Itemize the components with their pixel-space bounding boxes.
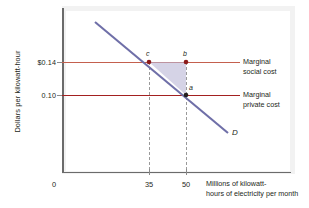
point-label-c: c [146, 50, 150, 57]
point-marker-b [184, 60, 189, 65]
x-tick-mark-50 [186, 169, 187, 175]
chart-overlay [0, 0, 309, 208]
x-axis-title: Millions of kilowatt- hours of electrici… [206, 179, 298, 199]
deadweight-loss-triangle [149, 62, 186, 95]
x-tick-label-50: 50 [182, 180, 190, 189]
chart-screenshot: $0.14 0.10 Dollars per kilowatt-hour Mar… [0, 0, 309, 208]
x-axis-title-line2: hours of electricity per month [206, 189, 298, 199]
point-marker-a [184, 93, 189, 98]
demand-curve-label: D [232, 128, 238, 137]
point-label-b: b [183, 50, 187, 57]
x-axis-title-line1: Millions of kilowatt- [206, 179, 298, 189]
x-tick-label-35: 35 [145, 180, 153, 189]
point-marker-c [147, 60, 152, 65]
x-axis-origin-label: 0 [52, 180, 56, 189]
x-tick-mark-35 [149, 169, 150, 175]
demand-curve-line [95, 22, 228, 133]
point-label-a: a [189, 84, 193, 91]
